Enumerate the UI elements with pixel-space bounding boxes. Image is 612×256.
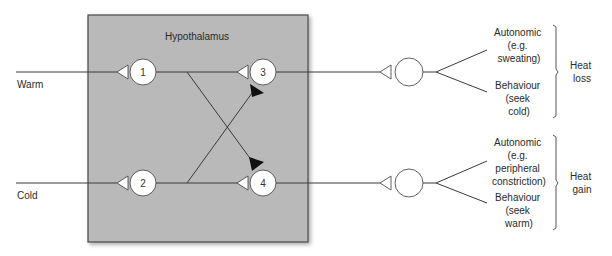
neuron-4-label: 4 <box>260 178 266 189</box>
branch-autonomic <box>436 50 487 72</box>
neuron-2-label: 2 <box>140 178 146 189</box>
heat-loss-label: Heat loss <box>570 60 594 84</box>
branch-behaviour <box>436 72 487 92</box>
synapse-triangle-icon <box>380 65 391 79</box>
cold-label: Cold <box>17 190 38 201</box>
neuron-3-label: 3 <box>260 67 266 78</box>
heat-gain-behaviour-text: Behaviour (seek warm) <box>495 192 543 229</box>
heat-gain-autonomic-text: Autonomic (e.g. peripheral constriction) <box>492 137 546 187</box>
synapse-triangle-icon <box>380 176 391 190</box>
neuron-1-label: 1 <box>140 67 146 78</box>
effector-neuron-heat-gain <box>380 161 487 203</box>
heat-gain-bracket <box>553 135 558 230</box>
heat-loss-autonomic-text: Autonomic (e.g. sweating) <box>494 27 544 64</box>
thermoregulation-diagram: Hypothalamus Warm Cold 1 2 3 4 <box>0 0 612 256</box>
effector-neuron-heat-loss <box>380 50 487 92</box>
heat-loss-bracket <box>553 25 558 118</box>
hypothalamus-label: Hypothalamus <box>165 31 229 42</box>
heat-gain-label: Heat gain <box>570 171 594 195</box>
hypothalamus-region <box>88 15 308 242</box>
heat-loss-behaviour-text: Behaviour (seek cold) <box>495 80 543 117</box>
branch-behaviour <box>436 183 487 203</box>
branch-autonomic <box>436 161 487 183</box>
warm-label: Warm <box>17 79 43 90</box>
